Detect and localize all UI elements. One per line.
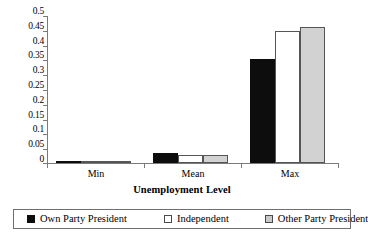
y-axis-tick (43, 149, 47, 150)
legend-label: Own Party President (40, 213, 127, 225)
bar-own-party-president-max (250, 59, 275, 163)
x-axis-tick-label-mean: Mean (182, 168, 205, 180)
y-axis-tick (43, 120, 47, 121)
legend-swatch-icon (265, 215, 273, 223)
legend-swatch-icon (164, 215, 172, 223)
bars-area (48, 16, 339, 163)
legend-item-independent: Independent (164, 213, 229, 225)
y-axis-tick-label: 0.4 (33, 36, 44, 46)
bar-independent-max (275, 31, 300, 163)
y-axis-tick-label: 0.2 (33, 95, 44, 105)
y-axis-tick (43, 105, 47, 106)
x-axis-tick-labels: Min Mean Max (48, 168, 339, 182)
x-axis-title: Unemployment Level (0, 184, 364, 195)
chart-legend: Own Party President Independent Other Pa… (13, 209, 351, 229)
x-axis-tick-label-max: Max (281, 168, 299, 180)
y-axis-tick-label: 0.15 (28, 110, 44, 120)
y-axis-tick (43, 31, 47, 32)
legend-swatch-icon (27, 215, 35, 223)
bar-other-party-president-mean (203, 155, 228, 163)
x-axis-tick-label-min: Min (88, 168, 105, 180)
y-axis-tick-label: 0.35 (28, 50, 44, 60)
legend-label: Independent (177, 213, 229, 225)
bar-group-mean (153, 16, 228, 163)
legend-item-own-party-president: Own Party President (27, 213, 127, 225)
bar-group-max (250, 16, 325, 163)
y-axis-tick (43, 75, 47, 76)
legend-label: Other Party President (278, 213, 368, 225)
bar-own-party-president-mean (153, 153, 178, 163)
y-axis-tick-label: 0.05 (28, 139, 44, 149)
y-axis-tick (43, 90, 47, 91)
y-axis-tick-label: 0.5 (33, 6, 44, 16)
legend-item-other-party-president: Other Party President (265, 213, 368, 225)
y-axis-tick-label: 0.45 (28, 21, 44, 31)
y-axis-tick (43, 16, 47, 17)
bar-group-min (56, 16, 131, 163)
y-axis-tick-labels: 0.5 0.45 0.4 0.35 0.3 0.25 0.2 0.15 0.1 … (0, 11, 44, 163)
x-axis-line (47, 163, 339, 164)
y-axis-tick-label: 0.25 (28, 80, 44, 90)
bar-independent-mean (178, 155, 203, 163)
y-axis-tick-label: 0.3 (33, 65, 44, 75)
bar-other-party-president-max (300, 27, 325, 163)
y-axis-tick (43, 134, 47, 135)
y-axis-tick (43, 60, 47, 61)
y-axis-tick (43, 46, 47, 47)
y-axis-tick-label: 0.1 (33, 124, 44, 134)
plot-area: 0.5 0.45 0.4 0.35 0.3 0.25 0.2 0.15 0.1 … (0, 0, 364, 178)
